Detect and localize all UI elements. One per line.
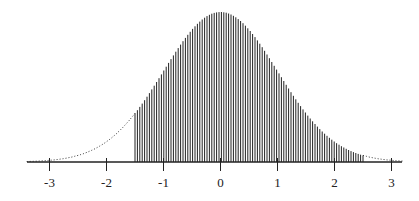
- curve-tail-right: [363, 155, 403, 161]
- x-axis-ticks: -3-2-10123: [44, 158, 395, 190]
- x-tick-label: -1: [158, 175, 169, 190]
- shaded-area: [135, 12, 363, 162]
- curve-tail-left: [27, 113, 135, 161]
- x-tick-label: 2: [331, 175, 338, 190]
- x-tick-label: -2: [101, 175, 112, 190]
- x-tick-label: 1: [274, 175, 281, 190]
- x-tick-label: 0: [217, 175, 224, 190]
- x-tick-label: -3: [44, 175, 55, 190]
- normal-distribution-chart: -3-2-10123: [0, 0, 419, 201]
- x-tick-label: 3: [388, 175, 395, 190]
